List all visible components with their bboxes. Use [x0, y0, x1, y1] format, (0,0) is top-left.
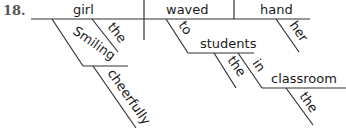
article-classroom-word: the [297, 89, 322, 115]
preposition-in-word: in [250, 56, 269, 74]
article-girl-word: the [105, 20, 130, 46]
object-word: hand [260, 2, 293, 17]
prep-object-students: students [200, 36, 257, 51]
possessive-her-word: her [287, 18, 312, 45]
preposition-to-word: to [176, 18, 196, 37]
problem-number: 18. [3, 3, 26, 18]
verb-word: waved [166, 2, 209, 17]
sentence-diagram: 18. girl waved hand the Smiling cheerful… [0, 0, 346, 132]
prep-object-classroom: classroom [271, 71, 337, 86]
subject-word: girl [73, 2, 94, 17]
